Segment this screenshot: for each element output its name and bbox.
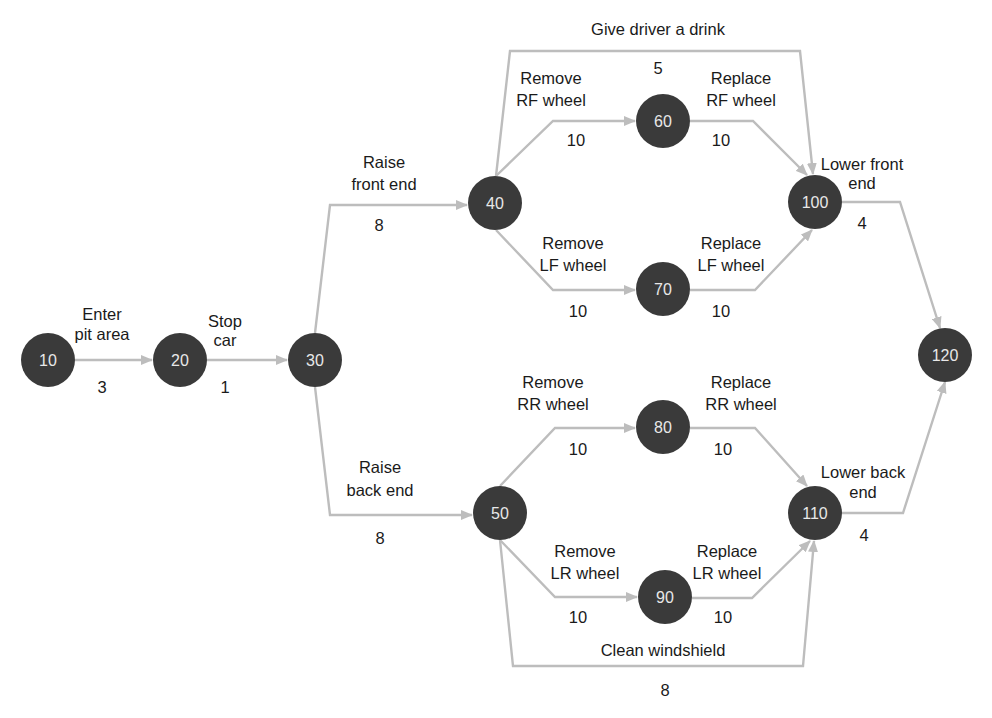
edge-30-40 xyxy=(315,205,467,333)
duration-remove-rr-wheel: 10 xyxy=(569,440,587,458)
node-120-label: 120 xyxy=(932,347,959,364)
activity-stop-car: Stopcar xyxy=(208,312,242,349)
activity-replace-lf-wheel: ReplaceLF wheel xyxy=(698,234,765,274)
edge-60-100 xyxy=(690,121,807,175)
activity-remove-lr-wheel: RemoveLR wheel xyxy=(551,542,620,582)
node-90-label: 90 xyxy=(656,589,674,606)
duration-give-driver-a-drink: 5 xyxy=(653,59,662,77)
activity-remove-rr-wheel: RemoveRR wheel xyxy=(517,373,589,413)
node-40-label: 40 xyxy=(486,195,504,212)
edge-50-80 xyxy=(500,428,635,486)
activity-replace-lr-wheel: ReplaceLR wheel xyxy=(693,542,762,582)
node-60: 60 xyxy=(636,94,690,148)
duration-lower-back-end: 4 xyxy=(859,526,868,544)
node-30-label: 30 xyxy=(306,352,324,369)
node-10-label: 10 xyxy=(39,352,57,369)
duration-remove-lf-wheel: 10 xyxy=(569,302,587,320)
node-100: 100 xyxy=(788,175,842,229)
activity-raise-back-end: Raiseback end xyxy=(347,458,414,499)
activity-remove-rf-wheel: RemoveRF wheel xyxy=(516,69,586,109)
activity-clean-windshield: Clean windshield xyxy=(601,641,726,659)
edge-40-60 xyxy=(496,121,635,176)
node-10: 10 xyxy=(21,333,75,387)
node-30: 30 xyxy=(288,333,342,387)
activity-raise-front-end: Raisefront end xyxy=(351,153,416,193)
duration-lower-front-end: 4 xyxy=(857,214,866,232)
node-70-label: 70 xyxy=(654,281,672,298)
duration-remove-lr-wheel: 10 xyxy=(569,608,587,626)
duration-remove-rf-wheel: 10 xyxy=(567,131,585,149)
node-20: 20 xyxy=(153,333,207,387)
activity-enter-pit-area: Enterpit area xyxy=(74,305,130,343)
activity-give-driver-a-drink: Give driver a drink xyxy=(591,20,726,38)
node-70: 70 xyxy=(636,262,690,316)
duration-replace-rf-wheel: 10 xyxy=(712,131,730,149)
node-120: 120 xyxy=(918,328,972,382)
duration-replace-lr-wheel: 10 xyxy=(714,608,732,626)
duration-raise-back-end: 8 xyxy=(375,529,384,547)
duration-enter-pit-area: 3 xyxy=(97,378,106,396)
activity-replace-rf-wheel: ReplaceRF wheel xyxy=(706,69,776,109)
node-50-label: 50 xyxy=(491,505,509,522)
edge-80-110 xyxy=(690,428,807,486)
node-20-label: 20 xyxy=(171,352,189,369)
duration-raise-front-end: 8 xyxy=(374,216,383,234)
duration-replace-rr-wheel: 10 xyxy=(714,440,732,458)
activity-remove-lf-wheel: RemoveLF wheel xyxy=(540,234,607,274)
node-60-label: 60 xyxy=(654,113,672,130)
node-80: 80 xyxy=(636,400,690,454)
node-110-label: 110 xyxy=(802,505,828,522)
node-100-label: 100 xyxy=(802,194,829,211)
node-80-label: 80 xyxy=(654,419,672,436)
node-40: 40 xyxy=(468,176,522,230)
node-50: 50 xyxy=(473,486,527,540)
node-110: 110 xyxy=(788,486,842,540)
duration-clean-windshield: 8 xyxy=(660,681,669,699)
pit-stop-network-diagram: Enterpit area 3 Stopcar 1 Raisefront end… xyxy=(0,0,992,718)
duration-stop-car: 1 xyxy=(220,378,229,396)
duration-replace-lf-wheel: 10 xyxy=(712,302,730,320)
activity-replace-rr-wheel: ReplaceRR wheel xyxy=(705,373,777,413)
node-90: 90 xyxy=(638,570,692,624)
